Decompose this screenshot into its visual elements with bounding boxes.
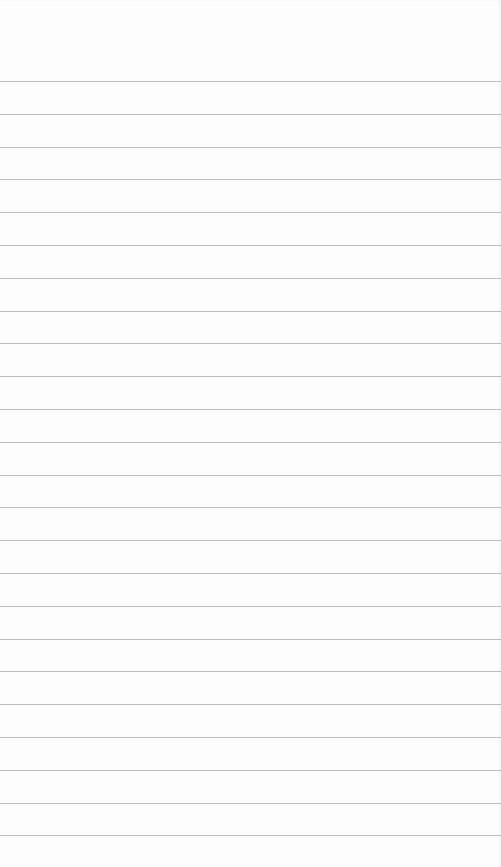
ruled-line xyxy=(0,639,501,640)
ruled-line xyxy=(0,245,501,246)
ruled-line xyxy=(0,81,501,82)
ruled-line xyxy=(0,835,501,836)
lined-notes-page[interactable] xyxy=(0,0,501,867)
ruled-line xyxy=(0,179,501,180)
ruled-line xyxy=(0,442,501,443)
ruled-line xyxy=(0,114,501,115)
ruled-line xyxy=(0,278,501,279)
ruled-line xyxy=(0,671,501,672)
ruled-line xyxy=(0,475,501,476)
ruled-line xyxy=(0,573,501,574)
ruled-line xyxy=(0,540,501,541)
ruled-line xyxy=(0,770,501,771)
ruled-line xyxy=(0,606,501,607)
ruled-line xyxy=(0,343,501,344)
ruled-line xyxy=(0,737,501,738)
ruled-line xyxy=(0,311,501,312)
ruled-line xyxy=(0,409,501,410)
ruled-line xyxy=(0,147,501,148)
ruled-line xyxy=(0,507,501,508)
ruled-line xyxy=(0,704,501,705)
ruled-line xyxy=(0,803,501,804)
ruled-line xyxy=(0,376,501,377)
ruled-line xyxy=(0,212,501,213)
